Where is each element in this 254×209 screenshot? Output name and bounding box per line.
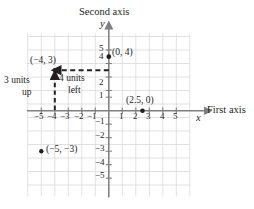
y-axis-variable-label: y xyxy=(100,18,105,29)
annotation-4-units-left-line1: 4 units xyxy=(59,74,85,84)
coordinate-plane-figure: Second axis y First axis x (−4, 3) (0, 4… xyxy=(0,0,254,209)
point-neg5-neg3 xyxy=(39,149,43,153)
point-neg4-3 xyxy=(53,68,57,72)
x-axis-variable-label: x xyxy=(196,112,201,123)
x-tick-label-neg4: −4 xyxy=(47,112,57,121)
y-tick-label-neg2: −2 xyxy=(95,131,105,140)
y-tick-label-4: 4 xyxy=(99,52,104,61)
x-tick-label-neg5: −5 xyxy=(34,112,44,121)
point-label-2p5-0: (2.5, 0) xyxy=(126,96,154,106)
y-tick-label-neg1: −1 xyxy=(95,117,105,126)
y-tick-label-neg4: −4 xyxy=(95,158,105,167)
annotation-4-units-left-line2: left xyxy=(68,86,81,96)
point-label-neg4-3: (−4, 3) xyxy=(30,56,56,66)
x-tick-label-5: 5 xyxy=(173,112,178,121)
y-tick-label-2: 2 xyxy=(99,78,104,87)
second-axis-title: Second axis xyxy=(79,6,129,17)
point-label-neg5-neg3: (−5, −3) xyxy=(46,145,77,155)
y-tick-label-1: 1 xyxy=(99,91,104,100)
point-0-4 xyxy=(106,54,111,59)
x-tick-label-neg2: −2 xyxy=(74,112,84,121)
x-tick-label-neg3: −3 xyxy=(60,112,70,121)
x-tick-label-3: 3 xyxy=(146,112,151,121)
annotation-3-units-up-line2: up xyxy=(22,88,32,98)
x-tick-label-2: 2 xyxy=(133,112,138,121)
first-axis-title: First axis xyxy=(207,104,246,115)
point-2p5-0 xyxy=(140,108,145,113)
annotation-3-units-up-line1: 3 units xyxy=(4,76,30,86)
y-tick-label-neg3: −3 xyxy=(95,144,105,153)
point-label-0-4: (0, 4) xyxy=(112,48,133,58)
x-tick-label-1: 1 xyxy=(119,112,124,121)
y-tick-label-neg5: −5 xyxy=(95,171,105,180)
x-tick-label-4: 4 xyxy=(160,112,165,121)
